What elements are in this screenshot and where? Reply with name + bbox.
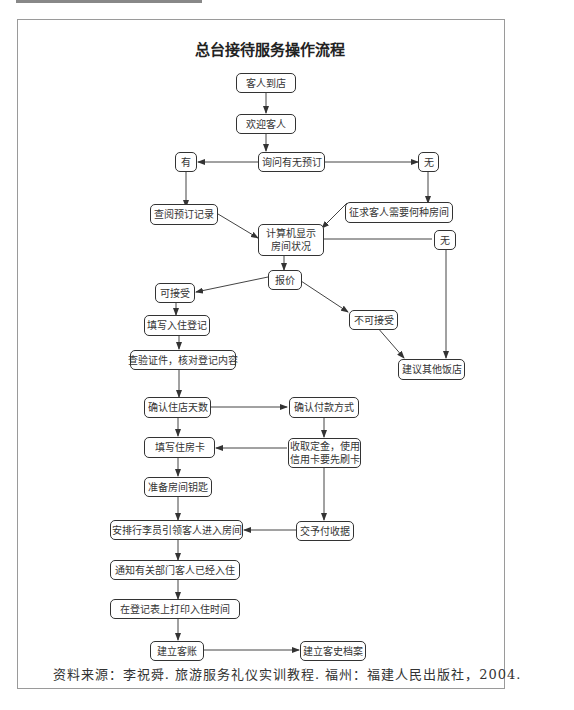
node-not-acceptable: 不可接受 [349,310,398,330]
node-open-account: 建立客账 [150,641,204,661]
node-bellboy: 安排行李员引领客人进入房间 [110,520,243,540]
node-prepare-key: 准备房间钥匙 [144,477,212,497]
connector-layer [0,0,574,710]
node-welcome: 欢迎客人 [236,114,296,134]
node-suggest-other-hotel: 建议其他饭店 [398,359,465,380]
node-check-records: 查阅预订记录 [150,204,218,225]
node-no-reservation: 无 [418,152,439,172]
node-computer-room-status: 计算机显示房间状况 [258,224,324,256]
node-arrive: 客人到店 [236,73,296,93]
node-verify-id: 查验证件，核对登记内容 [130,350,236,370]
node-ask-room-type: 征求客人需要何种房间 [345,202,453,223]
source-citation: 资料来源：李祝舜. 旅游服务礼仪实训教程. 福州：福建人民出版社，2004. [0,664,574,683]
node-fill-registration: 填写入住登记 [144,315,210,336]
node-confirm-payment: 确认付款方式 [289,397,359,418]
node-quote: 报价 [268,270,302,290]
node-print-time: 在登记表上打印入住时间 [110,599,240,619]
node-guest-history: 建立客史档案 [300,641,366,661]
node-notify-departments: 通知有关部门客人已经入住 [110,560,240,580]
node-acceptable: 可接受 [155,283,195,303]
node-fill-room-card: 填写住房卡 [144,437,215,458]
node-has-reservation: 有 [175,152,197,172]
node-ask-reservation: 询问有无预订 [258,152,325,172]
node-no-room: 无 [434,230,456,250]
node-confirm-days: 确认住店天数 [144,397,211,418]
node-give-receipt: 交予付收据 [296,521,354,541]
node-deposit: 收取定金，使用信用卡要先刷卡 [288,438,361,468]
